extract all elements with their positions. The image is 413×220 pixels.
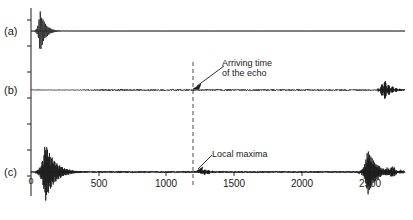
x-axis-tick-label: 500 <box>91 178 108 189</box>
local-maxima-arrow <box>198 155 212 169</box>
trace-b-label: (b) <box>4 84 17 96</box>
echo-annotation-arrow <box>197 66 224 86</box>
echo-annotation-line1: Arriving time <box>222 58 272 68</box>
x-axis-tick-label: 1500 <box>223 178 246 189</box>
origin-label: 0 <box>28 176 33 186</box>
x-axis-tick-label: 2000 <box>291 178 314 189</box>
echo-annotation-arrowhead <box>193 84 201 89</box>
waveform-plot: (a)(b)(c)50010001500200025000Arriving ti… <box>0 0 413 220</box>
trace-c-label: (c) <box>4 166 17 178</box>
trace-b-path <box>31 81 405 98</box>
trace-a-path <box>31 11 405 48</box>
echo-annotation-line2: of the echo <box>222 68 267 78</box>
local-maxima-label: Local maxima <box>212 149 268 159</box>
x-axis-tick-label: 1000 <box>155 178 178 189</box>
x-axis-tick-label: 2500 <box>359 178 382 189</box>
waveform-figure: (a)(b)(c)50010001500200025000Arriving ti… <box>0 0 413 220</box>
trace-a-label: (a) <box>4 25 17 37</box>
